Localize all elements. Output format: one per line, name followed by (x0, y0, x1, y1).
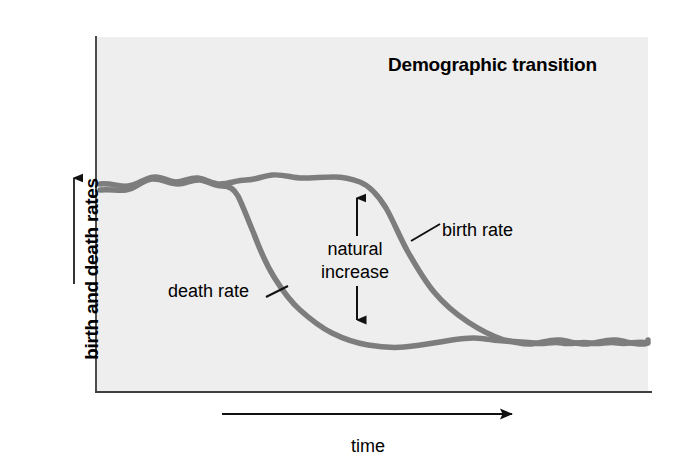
natural-increase-label-line-2: increase (303, 261, 407, 284)
x-axis-label: time (318, 436, 418, 457)
natural-increase-label: natural increase (303, 238, 407, 284)
demographic-transition-figure: Demographic transition birth and death r… (0, 0, 673, 474)
birth-rate-leader-line (411, 224, 440, 241)
natural-increase-label-line-1: natural (303, 238, 407, 261)
death-rate-label: death rate (168, 281, 249, 302)
y-axis-label: birth and death rates (81, 114, 103, 424)
birth-rate-label: birth rate (442, 220, 513, 241)
chart-title: Demographic transition (388, 54, 597, 76)
